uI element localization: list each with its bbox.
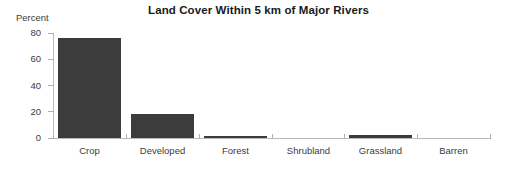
x-axis-category-label: Shrubland: [272, 146, 345, 156]
x-axis-category-label: Grassland: [344, 146, 417, 156]
y-tick-label: 80: [15, 28, 41, 38]
y-tick-label: 40: [15, 81, 41, 91]
x-axis-category-label: Crop: [53, 146, 126, 156]
y-tick-label: 20: [15, 107, 41, 117]
x-axis-category-label: Developed: [126, 146, 199, 156]
x-tick-mark: [490, 134, 491, 139]
bar-forest: [204, 136, 267, 139]
y-tick-label-text: 60: [15, 54, 41, 64]
y-tick-label: 60: [15, 54, 41, 64]
y-axis-label: Percent: [16, 12, 49, 23]
y-tick-label-text: 0: [15, 133, 41, 143]
y-tick-label-text: 40: [15, 81, 41, 91]
y-tick-label-text: 20: [15, 107, 41, 117]
bar-chart: Land Cover Within 5 km of Major Rivers P…: [0, 0, 517, 175]
bar-developed: [131, 114, 194, 138]
x-axis-category-label: Barren: [417, 146, 490, 156]
bar-grassland: [349, 135, 412, 138]
y-tick-label: 0: [15, 133, 41, 143]
bars-layer: [53, 33, 490, 138]
y-tick-label-text: 80: [15, 28, 41, 38]
x-axis-category-label: Forest: [199, 146, 272, 156]
chart-title: Land Cover Within 5 km of Major Rivers: [0, 4, 517, 16]
bar-crop: [58, 38, 121, 138]
